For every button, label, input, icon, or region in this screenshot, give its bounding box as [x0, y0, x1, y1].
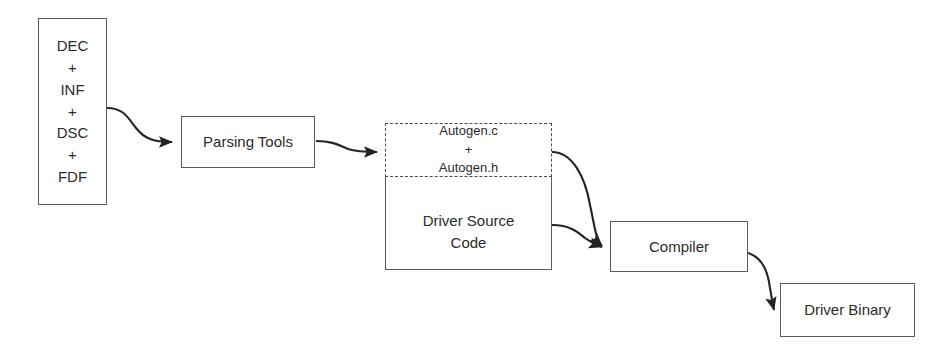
node-autogen-files: Autogen.c + Autogen.h — [385, 123, 552, 177]
diagram-canvas: DEC + INF + DSC + FDF Parsing Tools Driv… — [0, 0, 944, 357]
node-parsing-tools: Parsing Tools — [181, 116, 315, 168]
edge-inputs-to-parsing-tools — [107, 108, 172, 142]
node-driver-binary: Driver Binary — [780, 283, 915, 337]
edge-parsing-tools-to-autogen — [316, 141, 377, 152]
node-compiler: Compiler — [610, 221, 748, 272]
edge-driver-source-to-compiler — [552, 225, 602, 247]
node-input-files: DEC + INF + DSC + FDF — [38, 18, 107, 205]
edge-autogen-to-compiler — [552, 152, 602, 246]
node-driver-source-code: Driver Source Code — [385, 176, 552, 270]
edge-compiler-to-driver-binary — [748, 253, 774, 310]
